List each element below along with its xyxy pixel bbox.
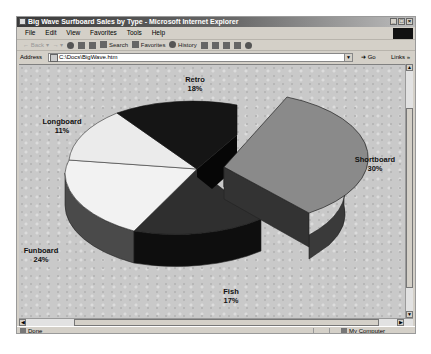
menu-tools[interactable]: Tools: [127, 29, 142, 36]
label-shortboard: Shortboard 30%: [355, 155, 395, 173]
scroll-right-button[interactable]: ▶: [397, 319, 404, 326]
print-icon[interactable]: [212, 42, 219, 49]
favorites-button[interactable]: Favorites: [132, 40, 165, 51]
window-title: Big Wave Surfboard Sales by Type - Micro…: [28, 17, 238, 27]
menu-file[interactable]: File: [25, 29, 35, 36]
mail-icon[interactable]: [201, 42, 208, 49]
favorites-icon: [132, 41, 139, 48]
menu-bar: File Edit View Favorites Tools Help: [17, 27, 415, 40]
pie-chart: [19, 65, 405, 319]
label-fish: Fish 17%: [223, 287, 238, 305]
history-button[interactable]: History: [169, 40, 196, 51]
menu-edit[interactable]: Edit: [45, 29, 56, 36]
home-icon[interactable]: [89, 42, 96, 49]
vertical-scrollbar[interactable]: ▲ ▼: [405, 64, 413, 318]
security-zone: My Computer: [341, 327, 385, 334]
page-done-icon: [20, 328, 26, 334]
search-icon: [100, 41, 107, 48]
scroll-up-button[interactable]: ▲: [406, 64, 413, 71]
menu-favorites[interactable]: Favorites: [90, 29, 117, 36]
close-button[interactable]: ×: [406, 18, 413, 25]
menu-help[interactable]: Help: [152, 29, 165, 36]
forward-button[interactable]: → ▾: [53, 40, 64, 51]
address-bar: Address C:\Docs\BigWave.htm ▼ ➜ Go Links…: [17, 52, 415, 63]
address-label: Address: [20, 52, 42, 63]
address-input[interactable]: C:\Docs\BigWave.htm ▼: [48, 53, 353, 62]
horizontal-scrollbar[interactable]: ◀ ▶: [19, 318, 413, 326]
links-button[interactable]: Links »: [391, 52, 410, 63]
edit-icon[interactable]: [223, 42, 230, 49]
status-text: Done: [20, 327, 42, 334]
page-content: Retro 18% Longboard 11% Shortboard 30% F…: [19, 64, 405, 319]
discuss-icon[interactable]: [234, 42, 241, 49]
computer-icon: [341, 328, 347, 334]
browser-window: Big Wave Surfboard Sales by Type - Micro…: [16, 16, 416, 334]
standard-toolbar: ← Back ▾ → ▾ Search Favorites History: [17, 40, 415, 51]
search-button[interactable]: Search: [100, 40, 128, 51]
status-divider: [329, 328, 330, 334]
status-bar: Done My Computer: [17, 326, 415, 334]
vertical-scroll-thumb[interactable]: [406, 108, 413, 288]
title-bar[interactable]: Big Wave Surfboard Sales by Type - Micro…: [17, 17, 415, 27]
history-icon: [169, 41, 176, 48]
go-button[interactable]: ➜ Go: [361, 52, 376, 63]
horizontal-scroll-thumb[interactable]: [74, 319, 379, 326]
maximize-button[interactable]: □: [398, 18, 405, 25]
address-dropdown-button[interactable]: ▼: [344, 54, 352, 61]
status-divider: [313, 328, 314, 334]
label-funboard: Funboard 24%: [24, 246, 59, 264]
messenger-icon[interactable]: [245, 42, 252, 49]
refresh-icon[interactable]: [78, 42, 85, 49]
scroll-left-button[interactable]: ◀: [19, 319, 26, 326]
label-retro: Retro 18%: [185, 75, 205, 93]
label-longboard: Longboard 11%: [42, 117, 81, 135]
stop-icon[interactable]: [67, 42, 74, 49]
scroll-down-button[interactable]: ▼: [406, 311, 413, 318]
menu-view[interactable]: View: [66, 29, 80, 36]
ie-app-icon: [19, 18, 26, 25]
minimize-button[interactable]: _: [390, 18, 397, 25]
page-icon: [50, 54, 58, 62]
windows-logo-icon: [393, 28, 413, 39]
back-button[interactable]: ← Back ▾: [23, 40, 49, 51]
